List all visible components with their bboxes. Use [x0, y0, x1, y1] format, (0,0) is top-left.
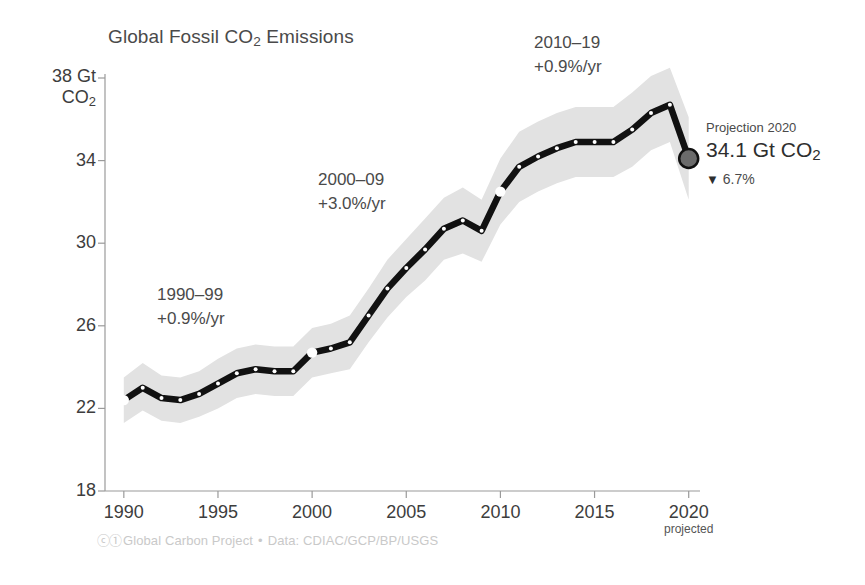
projection-change-value: 6.7%: [723, 171, 755, 187]
triangle-down-icon: ▼: [706, 172, 719, 187]
data-point: [235, 371, 239, 375]
y-tick-label-22: 22: [28, 397, 96, 418]
data-point: [630, 128, 634, 132]
decade-marker-2010: [495, 186, 505, 196]
annotation-decade-2000s: 2000–09+3.0%/yr: [318, 168, 386, 216]
data-point: [593, 140, 597, 144]
data-point: [348, 340, 352, 344]
x-tick-label-1990: 1990: [89, 502, 159, 523]
data-point: [555, 146, 559, 150]
y-axis-label: 38 Gt CO2: [28, 66, 96, 112]
chart-title-pre: Global Fossil CO: [108, 26, 253, 47]
y-axis-ticks: [98, 78, 105, 491]
uncertainty-band: [124, 68, 689, 423]
annotation-decade-1990s: 1990–99+0.9%/yr: [157, 283, 225, 331]
data-point: [423, 247, 427, 251]
projection-title: Projection 2020: [706, 120, 821, 136]
data-point: [291, 369, 295, 373]
chart-title-sub: 2: [253, 34, 261, 49]
credit-data-source: Data: CDIAC/GCP/BP/USGS: [268, 533, 439, 548]
data-point: [329, 347, 333, 351]
projection-callout: Projection 2020 34.1 Gt CO2 ▼ 6.7%: [706, 120, 821, 189]
x-tick-sublabel-2020: projected: [644, 522, 734, 536]
x-tick-label-2005: 2005: [371, 502, 441, 523]
y-tick-label-18: 18: [28, 480, 96, 501]
chart-credit: ⓒ①Global Carbon Project•Data: CDIAC/GCP/…: [97, 530, 438, 549]
data-point: [574, 140, 578, 144]
data-point: [367, 314, 371, 318]
decade-marker-2000: [307, 347, 317, 357]
y-tick-label-34: 34: [28, 150, 96, 171]
annotation-rate: +3.0%/yr: [318, 192, 386, 216]
credit-org: Global Carbon Project: [123, 533, 253, 548]
data-point: [649, 111, 653, 115]
creative-commons-icon: ⓒ①: [97, 530, 121, 549]
x-tick-label-2015: 2015: [560, 502, 630, 523]
data-point: [197, 392, 201, 396]
page-title: Global Fossil CO2 Emissions: [108, 26, 354, 49]
x-tick-label-2020: 2020: [654, 502, 724, 523]
annotation-period: 2000–09: [318, 168, 386, 192]
data-point: [461, 219, 465, 223]
data-point: [480, 229, 484, 233]
projection-endpoint-marker: [679, 149, 698, 168]
data-point: [611, 140, 615, 144]
x-axis-ticks: [124, 491, 689, 498]
projection-change: ▼ 6.7%: [706, 170, 821, 189]
projection-value: 34.1 Gt CO2: [706, 137, 821, 168]
annotation-rate: +0.9%/yr: [157, 307, 225, 331]
data-point: [536, 155, 540, 159]
data-point: [141, 386, 145, 390]
data-point: [442, 227, 446, 231]
y-axis-label-bottom: CO2: [28, 87, 96, 112]
chart-canvas: Global Fossil CO2 Emissions 38 Gt CO2 18…: [0, 0, 865, 585]
data-point: [668, 103, 672, 107]
data-point: [404, 266, 408, 270]
annotation-rate: +0.9%/yr: [534, 55, 602, 79]
decade-marker-1990: [119, 395, 129, 405]
y-tick-label-30: 30: [28, 232, 96, 253]
data-point: [517, 165, 521, 169]
data-point: [216, 382, 220, 386]
x-tick-label-2010: 2010: [465, 502, 535, 523]
data-point: [160, 396, 164, 400]
x-tick-label-1995: 1995: [183, 502, 253, 523]
annotation-period: 1990–99: [157, 283, 225, 307]
annotation-period: 2010–19: [534, 31, 602, 55]
y-tick-label-26: 26: [28, 315, 96, 336]
data-point: [273, 369, 277, 373]
credit-separator: •: [253, 533, 268, 548]
data-point: [178, 398, 182, 402]
y-axis-label-top: 38 Gt: [28, 66, 96, 87]
annotation-decade-2010s: 2010–19+0.9%/yr: [534, 31, 602, 79]
data-point: [254, 367, 258, 371]
co2-emissions-line-chart: [0, 0, 865, 585]
x-tick-label-2000: 2000: [277, 502, 347, 523]
chart-title-post: Emissions: [261, 26, 354, 47]
data-point: [385, 287, 389, 291]
